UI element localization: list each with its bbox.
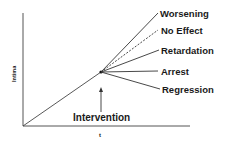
retardation-line (101, 50, 159, 72)
arrest-label: Arrest (161, 66, 190, 77)
intervention-outcome-diagram: Worsening No Effect Retardation Arrest R… (0, 0, 231, 141)
arrest-line (101, 71, 158, 72)
y-axis-label: Intima (11, 65, 17, 82)
no-effect-label: No Effect (161, 25, 204, 36)
arrowhead-icon (99, 87, 103, 92)
worsening-line (101, 13, 158, 72)
retardation-label: Retardation (161, 45, 214, 56)
no-effect-line (101, 30, 158, 72)
regression-label: Regression (162, 84, 214, 95)
worsening-label: Worsening (160, 8, 209, 19)
regression-line (101, 72, 160, 89)
x-axis-label: t (99, 132, 101, 138)
intervention-label: Intervention (73, 112, 130, 123)
